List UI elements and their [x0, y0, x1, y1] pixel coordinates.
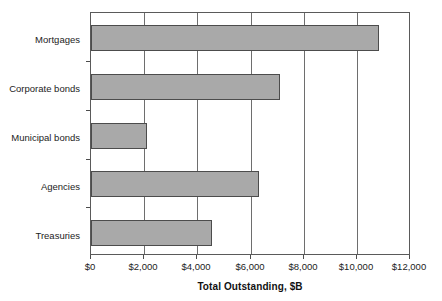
- x-axis-tick-4000: [196, 255, 197, 259]
- bar-treasuries: [91, 220, 212, 246]
- y-axis-label-treasuries: Treasuries: [0, 230, 80, 241]
- y-axis-label-municipal-bonds: Municipal bonds: [0, 132, 80, 143]
- y-axis-label-group: Mortgages Corporate bonds Municipal bond…: [0, 12, 86, 255]
- x-axis-label-12000: $12,000: [392, 261, 426, 272]
- x-axis-label-10000: $10,000: [339, 261, 373, 272]
- x-axis-tick-6000: [250, 255, 251, 259]
- bar-corporate-bonds: [91, 74, 280, 100]
- bar-agencies: [91, 171, 259, 197]
- x-axis-tick-0: [90, 255, 91, 259]
- bar-municipal-bonds: [91, 123, 147, 149]
- y-axis-label-agencies: Agencies: [0, 181, 80, 192]
- plot-area: [90, 12, 410, 255]
- x-axis-title: Total Outstanding, $B: [90, 281, 410, 292]
- x-axis-label-6000: $6,000: [235, 261, 264, 272]
- bar-mortgages: [91, 25, 379, 51]
- y-axis-label-mortgages: Mortgages: [0, 34, 80, 45]
- x-axis-tick-8000: [303, 255, 304, 259]
- x-axis-tick-12000: [409, 255, 410, 259]
- y-axis-label-corporate-bonds: Corporate bonds: [0, 83, 80, 94]
- x-axis-label-2000: $2,000: [128, 261, 157, 272]
- x-axis-label-0: $0: [85, 261, 96, 272]
- x-axis-label-8000: $8,000: [288, 261, 317, 272]
- x-axis-tick-10000: [356, 255, 357, 259]
- bar-chart: Mortgages Corporate bonds Municipal bond…: [0, 0, 442, 301]
- x-axis-label-4000: $4,000: [181, 261, 210, 272]
- x-axis-tick-2000: [143, 255, 144, 259]
